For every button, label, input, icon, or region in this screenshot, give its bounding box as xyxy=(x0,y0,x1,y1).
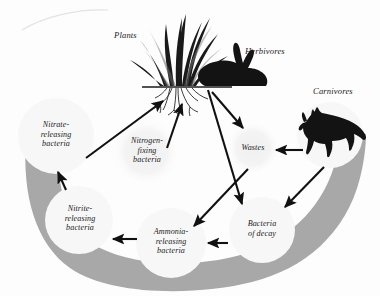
label-carnivores: Carnivores xyxy=(313,86,353,96)
circle-nitrate-releasing-bacteria xyxy=(18,98,94,174)
circle-nitrite-releasing-bacteria xyxy=(45,186,113,254)
label-herbivores: Herbivores xyxy=(245,46,285,56)
diagram-canvas xyxy=(0,0,380,296)
label-plants: Plants xyxy=(114,30,137,40)
nitrogen-cycle-diagram: Nitrate- releasing bacteria Nitrogen- fi… xyxy=(0,0,380,296)
scan-artifact-arc xyxy=(22,10,108,30)
circle-wastes xyxy=(226,121,280,175)
circle-ammonia-releasing-bacteria xyxy=(136,208,206,278)
circle-nitrogen-fixing-bacteria xyxy=(112,118,180,186)
